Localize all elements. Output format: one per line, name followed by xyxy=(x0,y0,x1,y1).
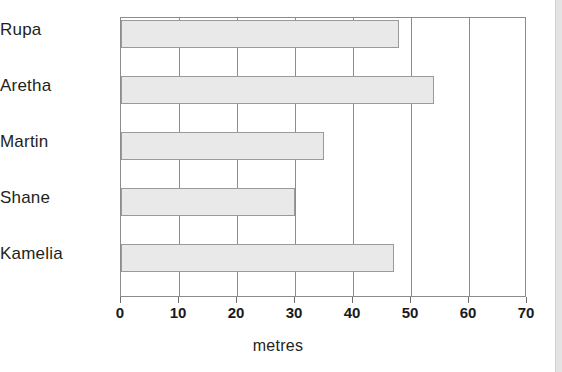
bar-row xyxy=(121,76,527,104)
tick-mark-10 xyxy=(178,297,179,303)
category-label-martin: Martin xyxy=(0,132,96,152)
bar-row xyxy=(121,132,527,160)
bar-row xyxy=(121,20,527,48)
tick-mark-40 xyxy=(352,297,353,303)
category-label-rupa: Rupa xyxy=(0,20,96,40)
x-axis: 010203040506070 xyxy=(120,297,526,327)
category-label-aretha: Aretha xyxy=(0,76,96,96)
bar-martin xyxy=(121,132,324,160)
bar-chart-figure: RupaArethaMartinShaneKamelia 01020304050… xyxy=(0,0,562,372)
tick-mark-60 xyxy=(468,297,469,303)
tick-label-60: 60 xyxy=(460,304,477,321)
bar-kamelia xyxy=(121,244,394,272)
tick-mark-50 xyxy=(410,297,411,303)
bar-row xyxy=(121,188,527,216)
category-axis-labels: RupaArethaMartinShaneKamelia xyxy=(0,15,112,297)
tick-label-40: 40 xyxy=(344,304,361,321)
plot-area xyxy=(120,17,526,297)
category-label-kamelia: Kamelia xyxy=(0,244,96,264)
x-axis-title: metres xyxy=(0,337,556,355)
tick-mark-30 xyxy=(294,297,295,303)
tick-mark-20 xyxy=(236,297,237,303)
tick-label-70: 70 xyxy=(518,304,535,321)
bar-aretha xyxy=(121,76,434,104)
tick-label-20: 20 xyxy=(228,304,245,321)
bar-shane xyxy=(121,188,295,216)
bar-row xyxy=(121,244,527,272)
tick-label-0: 0 xyxy=(116,304,124,321)
tick-label-50: 50 xyxy=(402,304,419,321)
page-edge-strip xyxy=(555,0,562,372)
tick-label-30: 30 xyxy=(286,304,303,321)
tick-mark-0 xyxy=(120,297,121,303)
tick-mark-70 xyxy=(526,297,527,303)
tick-label-10: 10 xyxy=(170,304,187,321)
bar-rupa xyxy=(121,20,399,48)
category-label-shane: Shane xyxy=(0,188,96,208)
